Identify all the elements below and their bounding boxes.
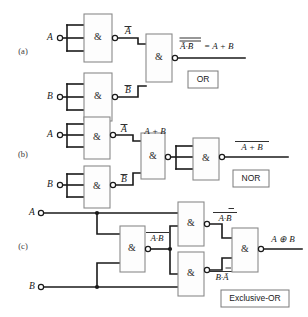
panel-a-output-expression-right: = A + B: [204, 41, 234, 51]
panel-a-output-expression: Ā·B̄ = A + B: [179, 38, 234, 51]
panel-c-wire-upper-to-out: [210, 224, 232, 238]
panel-b-input-a-label: A: [46, 129, 53, 139]
panel-c-input-a-label: A: [28, 207, 35, 217]
panel-a-function-label: OR: [197, 74, 210, 84]
panel-b-output-expression: A + B: [235, 142, 269, 153]
panel-c-gate-mid-symbol: &: [128, 242, 136, 253]
panel-b-gate-out-bubble: [219, 154, 224, 159]
panel-a: (a) A & A B: [18, 14, 245, 121]
panel-c-wire-mid-to-lower: [170, 249, 178, 274]
panel-c-id: (c): [18, 241, 28, 251]
panel-c-function-label: Exclusive-OR: [229, 293, 280, 303]
panel-b-gate-inv-b-bubble: [110, 182, 115, 187]
panel-a-input-a-label: A: [46, 32, 53, 42]
panel-c-gate-mid-bubble: [145, 246, 150, 251]
panel-a-gate-inv-a-symbol: &: [94, 31, 102, 42]
panel-c-gate-lower-symbol: &: [187, 267, 195, 278]
panel-c-mid-expression-text: A·B: [149, 233, 164, 243]
panel-c-gate-out-symbol: &: [241, 243, 249, 254]
panel-c-input-b-terminal: [38, 284, 43, 289]
panel-a-abar-label: A: [124, 26, 131, 36]
panel-b-gate-inv-a-bubble: [110, 132, 115, 137]
panel-c-lower-expression-text: B·Ā: [215, 272, 229, 282]
panel-b-function-label: NOR: [242, 173, 261, 183]
panel-b-mid-expression: A + B: [143, 126, 166, 136]
panel-b-gate-inv-a-symbol: &: [93, 131, 101, 142]
panel-c-output-expression: A ⊕ B: [270, 234, 295, 244]
panel-b: (b) A & A B & B: [18, 117, 288, 208]
panel-a-gate-inv-a-bubble: [112, 35, 117, 40]
panel-a-gate-out-symbol: &: [155, 51, 163, 62]
panel-b-bbar-label: B: [121, 174, 127, 184]
panel-c: (c) A B & A·B: [18, 202, 302, 307]
panel-b-input-a-terminal: [57, 132, 62, 137]
panel-b-output-expression-text: A + B: [240, 142, 263, 152]
panel-a-output-expression-left: Ā·B̄: [179, 41, 194, 51]
panel-a-input-b-terminal: [57, 94, 62, 99]
panel-b-gate-mid-symbol: &: [149, 150, 157, 161]
panel-c-wire-b-branch: [97, 263, 120, 287]
panel-a-function-box: OR: [188, 71, 218, 88]
panel-a-id: (a): [18, 46, 28, 56]
panel-c-function-box: Exclusive-OR: [221, 290, 289, 307]
panel-a-gate-inv-b-symbol: &: [94, 90, 102, 101]
logic-circuit-figure: (a) A & A B: [0, 0, 308, 317]
panel-a-wire-abar: [118, 38, 146, 44]
panel-a-wire-bbar: [118, 86, 146, 97]
panel-b-gate-inv-b-symbol: &: [93, 180, 101, 191]
panel-b-gate-mid-bubble: [165, 154, 170, 159]
panel-c-gate-out-bubble: [258, 246, 263, 251]
panel-b-wire-bbar: [116, 173, 141, 185]
panel-c-wire-mid-to-upper: [170, 226, 178, 249]
panel-a-gate-out-bubble: [172, 55, 177, 60]
panel-b-input-b-terminal: [57, 182, 62, 187]
panel-b-function-box: NOR: [233, 170, 269, 187]
panel-c-input-a-terminal: [38, 210, 43, 215]
panel-c-gate-upper-bubble: [204, 221, 209, 226]
panel-c-upper-expression: A·B̄: [213, 209, 237, 224]
panel-a-bbar-label: B: [125, 85, 131, 95]
panel-b-wire-abar: [116, 135, 141, 141]
panel-c-wire-a-branch: [97, 213, 120, 234]
panel-a-input-b-label: B: [47, 91, 53, 101]
panel-b-abar-label: A: [120, 124, 127, 134]
panel-c-input-b-label: B: [29, 281, 35, 291]
panel-b-id: (b): [18, 149, 28, 159]
panel-c-gate-lower-bubble: [204, 267, 209, 272]
panel-b-input-b-label: B: [47, 179, 53, 189]
panel-c-gate-upper-symbol: &: [187, 217, 195, 228]
panel-c-upper-expression-text: A·B̄: [217, 213, 232, 223]
panel-b-gate-out-symbol: &: [202, 152, 210, 163]
panel-a-gate-inv-b-bubble: [112, 94, 117, 99]
panel-c-mid-expression: A·B: [146, 233, 169, 244]
panel-a-input-a-terminal: [57, 35, 62, 40]
